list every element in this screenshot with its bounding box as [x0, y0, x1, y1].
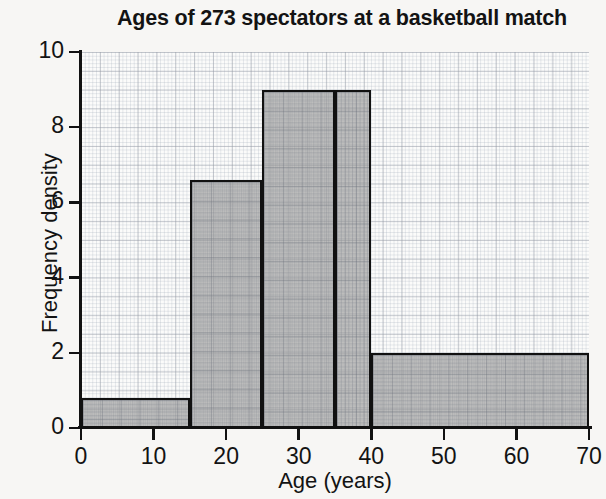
x-axis-tick-label: 40	[341, 443, 401, 470]
x-axis-tick	[443, 429, 446, 440]
histogram-bar	[335, 90, 371, 428]
x-axis-tick-label: 50	[414, 443, 474, 470]
x-axis-title: Age (years)	[81, 468, 589, 494]
y-axis-tick	[69, 201, 80, 204]
histogram-bar	[371, 353, 589, 428]
y-axis-tick	[69, 352, 80, 355]
y-axis-tick	[69, 126, 80, 129]
x-axis-tick	[515, 429, 518, 440]
chart-title: Ages of 273 spectators at a basketball m…	[83, 6, 601, 31]
y-axis-tick	[69, 427, 80, 430]
y-axis-tick-label: 10	[14, 37, 64, 64]
x-axis-tick	[80, 429, 83, 440]
y-axis-tick-label: 0	[14, 413, 64, 440]
y-axis-line	[79, 50, 82, 429]
histogram-bar	[190, 180, 263, 428]
x-axis-tick	[370, 429, 373, 440]
x-axis-tick-label: 20	[196, 443, 256, 470]
y-axis-title: Frequency density	[37, 78, 63, 408]
x-axis-tick	[225, 429, 228, 440]
x-axis-tick	[297, 429, 300, 440]
x-axis-tick	[588, 429, 591, 440]
histogram-bar	[262, 90, 335, 428]
x-axis-tick-label: 0	[51, 443, 111, 470]
histogram-bar	[81, 398, 190, 428]
y-axis-tick	[69, 51, 80, 54]
x-axis-tick-label: 70	[559, 443, 606, 470]
x-axis-tick-label: 30	[269, 443, 329, 470]
x-axis-tick-label: 60	[486, 443, 546, 470]
y-axis-tick	[69, 276, 80, 279]
plot-area	[81, 52, 589, 428]
x-axis-tick-label: 10	[124, 443, 184, 470]
x-axis-tick	[152, 429, 155, 440]
